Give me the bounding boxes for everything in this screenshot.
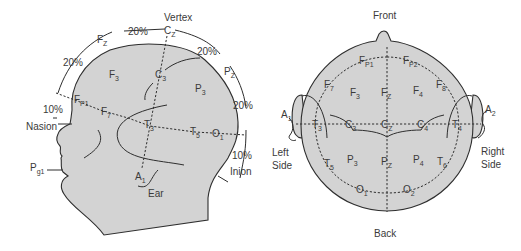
- pct-nasion-fp1: 10%: [43, 104, 63, 115]
- side-electrode-pg1: Pg1: [30, 162, 45, 176]
- eeg-10-20-diagram: Vertex 20% 20% 20% 20% 10% 10% Nasion In…: [0, 0, 521, 251]
- inion-label: Inion: [230, 166, 252, 177]
- pct-cz-pz: 20%: [197, 46, 217, 57]
- pct-fp1-fz: 20%: [63, 57, 83, 68]
- ear-label: Ear: [148, 188, 164, 199]
- vertex-label: Vertex: [164, 12, 192, 23]
- top-electrode-a2: A2: [485, 104, 496, 117]
- right-side-label-1: Right: [481, 146, 505, 157]
- pct-pz-o1: 20%: [233, 100, 253, 111]
- side-electrode-fz: FZ: [97, 34, 108, 47]
- back-label: Back: [374, 228, 397, 239]
- pct-o1-inion: 10%: [232, 150, 252, 161]
- pct-fz-cz: 20%: [128, 26, 148, 37]
- front-label: Front: [373, 10, 397, 21]
- side-view: Vertex 20% 20% 20% 20% 10% 10% Nasion In…: [26, 12, 253, 235]
- side-inion-tick: [218, 176, 228, 182]
- side-electrode-cz: CZ: [164, 25, 176, 38]
- left-side-label-2: Side: [272, 160, 292, 171]
- left-side-label-1: Left: [272, 147, 289, 158]
- nasion-label: Nasion: [26, 121, 57, 132]
- right-side-label-2: Side: [481, 159, 501, 170]
- top-electrode-a1: A1: [281, 109, 292, 122]
- side-electrode-pz: PZ: [224, 66, 236, 79]
- top-view: Front Back Left Side Right Side FP1 FP2 …: [272, 10, 505, 239]
